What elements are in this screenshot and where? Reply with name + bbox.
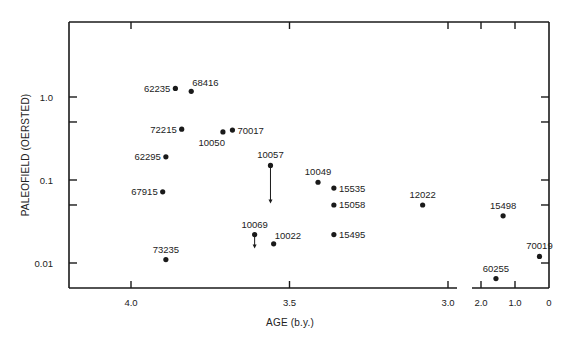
point-marker (179, 127, 184, 132)
point-label: 62295 (134, 151, 160, 162)
point-marker (173, 86, 178, 91)
point-label: 15498 (490, 200, 516, 211)
point-marker (537, 254, 542, 259)
point-label: 10057 (257, 149, 283, 160)
point-marker (331, 232, 336, 237)
data-point-67915: 67915 (131, 186, 165, 197)
x-tick-label: 4.0 (124, 297, 137, 308)
axis-tick-labels: 4.03.53.02.01.000.010.11.0 (35, 92, 552, 309)
point-label: 10050 (199, 137, 225, 148)
data-points: 6223568416722151005070017622956791510057… (131, 77, 552, 281)
y-tick-label: 0.01 (35, 258, 54, 269)
y-tick-label: 1.0 (40, 92, 53, 103)
y-tick-label: 0.1 (40, 175, 53, 186)
point-marker (163, 257, 168, 262)
point-marker (331, 202, 336, 207)
x-tick-label: 0 (546, 297, 551, 308)
data-point-10049: 10049 (305, 166, 331, 185)
point-label: 67915 (131, 186, 157, 197)
paleofield-vs-age-chart: 4.03.53.02.01.000.010.11.0 6223568416722… (0, 0, 575, 347)
x-tick-label: 1.0 (508, 297, 521, 308)
point-label: 12022 (409, 189, 435, 200)
point-marker (420, 202, 425, 207)
point-label: 60255 (483, 263, 509, 274)
point-marker (315, 180, 320, 185)
data-point-72215: 72215 (150, 124, 184, 135)
down-arrow-icon (268, 200, 272, 204)
point-label: 10069 (241, 219, 267, 230)
data-point-15498: 15498 (490, 200, 516, 219)
point-label: 68416 (192, 77, 218, 88)
point-label: 10049 (305, 166, 331, 177)
data-point-62295: 62295 (134, 151, 168, 162)
down-arrow-icon (253, 244, 257, 248)
data-point-68416: 68416 (189, 77, 219, 94)
point-label: 15535 (339, 183, 365, 194)
point-label: 70017 (237, 125, 263, 136)
point-label: 62235 (144, 83, 170, 94)
point-marker (501, 213, 506, 218)
data-point-60255: 60255 (483, 263, 509, 282)
point-label: 15058 (339, 199, 365, 210)
point-label: 73235 (153, 244, 179, 255)
point-marker (163, 154, 168, 159)
point-marker (160, 189, 165, 194)
point-marker (493, 276, 498, 281)
data-point-15058: 15058 (331, 199, 365, 210)
data-point-12022: 12022 (409, 189, 435, 208)
data-point-10057: 10057 (257, 149, 283, 203)
x-tick-label: 3.5 (283, 297, 296, 308)
point-label: 70019 (526, 240, 552, 251)
point-label: 72215 (150, 124, 176, 135)
data-point-62235: 62235 (144, 83, 178, 94)
x-tick-label: 2.0 (474, 297, 487, 308)
data-point-10022: 10022 (271, 230, 301, 247)
point-label: 10022 (275, 230, 301, 241)
data-point-15495: 15495 (331, 229, 365, 240)
y-axis-title: PALEOFIELD (OERSTED) (20, 94, 31, 217)
point-marker (230, 127, 235, 132)
point-label: 15495 (339, 229, 365, 240)
point-marker (189, 89, 194, 94)
point-marker (220, 129, 225, 134)
data-point-15535: 15535 (331, 183, 365, 194)
point-marker (271, 241, 276, 246)
data-point-73235: 73235 (153, 244, 179, 263)
data-point-10050: 10050 (199, 129, 226, 148)
x-tick-label: 3.0 (441, 297, 454, 308)
data-point-70017: 70017 (230, 125, 264, 136)
point-marker (331, 185, 336, 190)
data-point-10069: 10069 (241, 219, 267, 249)
x-axis-title: AGE (b.y.) (266, 317, 314, 328)
